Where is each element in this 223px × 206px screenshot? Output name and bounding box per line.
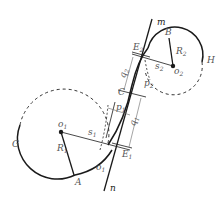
label-a: A [75,178,82,187]
label-b: B [165,28,172,37]
radius-r2 [169,38,173,66]
label-n: n [110,184,116,193]
label-s1: s1 [88,128,96,139]
label-r1: R1 [57,144,68,155]
e1-perp [112,143,132,148]
label-p1: p1 [116,103,126,114]
reverse-curve-diagram [0,0,223,206]
p2-dashed-curve [145,60,150,80]
label-o2: o2 [174,67,183,78]
label-m: m [157,18,166,27]
label-g: G [12,140,19,149]
label-e1: E1 [122,150,132,161]
label-c: C [118,88,125,97]
label-o1-tangent: o1 [96,163,105,174]
label-s2: s2 [155,62,163,73]
label-e2: E2 [133,43,143,54]
transition-curve [108,48,148,145]
p1-ext [106,102,115,138]
label-o1: o1 [58,120,67,131]
label-p2: p2 [144,79,154,90]
label-h: H [207,56,215,65]
tangent-line-mn [104,19,152,191]
label-r2: R2 [176,47,187,58]
